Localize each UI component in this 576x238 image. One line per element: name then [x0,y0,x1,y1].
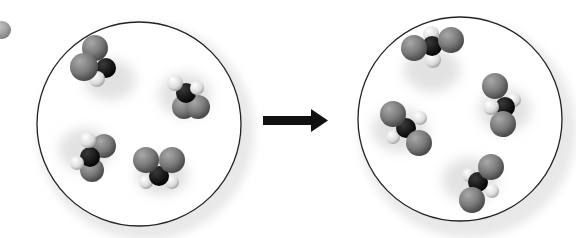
reaction-arrow-icon [263,109,328,132]
molecule [401,26,464,92]
reactant-container [37,22,254,238]
partial-sphere-icon [0,21,11,39]
product-container [358,17,576,238]
reaction-diagram [0,0,576,238]
